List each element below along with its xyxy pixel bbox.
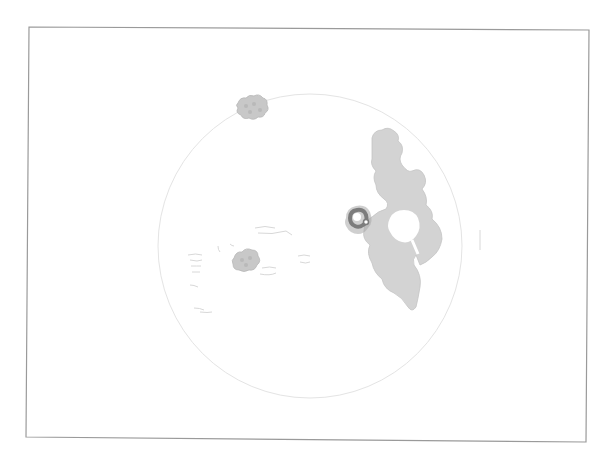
large-blob-right [345,128,442,310]
small-blob-lower [232,249,260,272]
figure [0,0,603,453]
small-blob-top [237,95,269,119]
figure-canvas [0,0,603,453]
figure-frame [26,27,589,442]
